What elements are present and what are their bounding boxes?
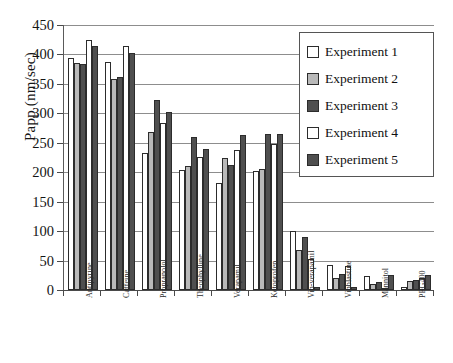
bar-group — [142, 25, 172, 290]
x-category-label: Vin-verapamil — [307, 251, 316, 298]
legend-label: Experiment 5 — [325, 153, 398, 167]
x-tick-mark — [174, 290, 175, 296]
x-tick-mark — [433, 290, 434, 296]
bar-group — [253, 25, 283, 290]
x-category-label: Vinblastine — [344, 260, 353, 298]
x-tick-mark — [248, 290, 249, 296]
bar-group — [68, 25, 98, 290]
bar — [92, 46, 98, 290]
x-category-label: Theophylline — [196, 254, 205, 298]
legend-swatch-icon — [307, 154, 319, 166]
x-tick-mark — [322, 290, 323, 296]
y-tick-label: 350 — [8, 77, 54, 92]
x-category-label: Caffeine — [122, 270, 131, 298]
legend-label: Experiment 2 — [325, 72, 398, 86]
legend-swatch-icon — [307, 127, 319, 139]
y-tick-label: 100 — [8, 224, 54, 239]
bar-group — [179, 25, 209, 290]
x-tick-mark — [285, 290, 286, 296]
legend-label: Experiment 3 — [325, 99, 398, 113]
x-tick-mark — [359, 290, 360, 296]
legend-item: Experiment 2 — [307, 65, 427, 92]
legend-item: Experiment 1 — [307, 38, 427, 65]
y-tick-label: 300 — [8, 106, 54, 121]
y-tick-label: 0 — [8, 283, 54, 298]
y-tick-label: 250 — [8, 136, 54, 151]
x-category-label: Verapamil — [233, 264, 242, 298]
legend-swatch-icon — [307, 46, 319, 58]
x-tick-mark — [137, 290, 138, 296]
x-category-label: Mannitol — [381, 268, 390, 298]
legend-item: Experiment 5 — [307, 146, 427, 173]
x-tick-mark — [211, 290, 212, 296]
bar-chart-figure: Papp (nm/sec) 05010015020025030035040045… — [0, 0, 453, 363]
x-tick-mark — [100, 290, 101, 296]
x-category-label: PEG400 — [418, 270, 427, 298]
y-tick-label: 50 — [8, 254, 54, 269]
bar — [129, 53, 135, 290]
x-category-label: Propranolol — [159, 259, 168, 298]
legend-item: Experiment 4 — [307, 119, 427, 146]
legend-swatch-icon — [307, 100, 319, 112]
legend-label: Experiment 1 — [325, 45, 398, 59]
legend-label: Experiment 4 — [325, 126, 398, 140]
y-tick-label: 400 — [8, 47, 54, 62]
x-tick-mark — [396, 290, 397, 296]
x-tick-mark — [63, 290, 64, 296]
bar-group — [105, 25, 135, 290]
legend-box: Experiment 1Experiment 2Experiment 3Expe… — [299, 32, 434, 177]
y-tick-label: 450 — [8, 18, 54, 33]
x-category-label: Ketoprofen — [270, 261, 279, 298]
bar-group — [216, 25, 246, 290]
legend-item: Experiment 3 — [307, 92, 427, 119]
y-tick-label: 150 — [8, 195, 54, 210]
y-tick-label: 200 — [8, 165, 54, 180]
legend-swatch-icon — [307, 73, 319, 85]
x-category-label: Antipyrine — [85, 262, 94, 298]
